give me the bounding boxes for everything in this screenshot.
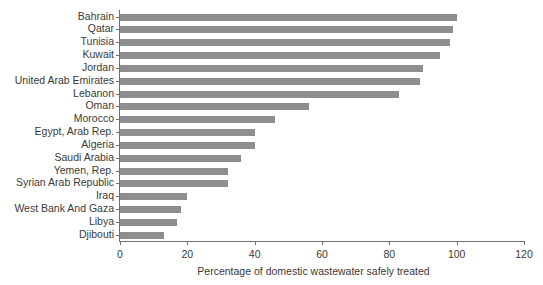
category-label: Egypt, Arab Rep. [35, 126, 114, 137]
bar [120, 168, 228, 175]
bar-row: Qatar [120, 24, 524, 37]
category-label: West Bank And Gaza [14, 203, 114, 214]
bar-chart: BahrainQatarTunisiaKuwaitJordanUnited Ar… [0, 0, 543, 285]
bar [120, 91, 399, 98]
bar-row: Morocco [120, 114, 524, 127]
category-label: Qatar [88, 23, 114, 34]
bar-row: Kuwait [120, 50, 524, 63]
x-axis-tick-label: 100 [448, 248, 466, 260]
x-axis-title: Percentage of domestic wastewater safely… [0, 265, 543, 277]
category-label: Algeria [81, 139, 114, 150]
bar-row: Bahrain [120, 12, 524, 25]
bar [120, 78, 420, 85]
bar-row: Syrian Arab Republic [120, 178, 524, 191]
category-label: Bahrain [78, 11, 114, 22]
x-axis-tick [389, 241, 390, 245]
bar [120, 142, 255, 149]
bar [120, 155, 241, 162]
category-label: United Arab Emirates [15, 75, 114, 86]
bar-row: Jordan [120, 63, 524, 76]
bar [120, 103, 309, 110]
bar-row: United Arab Emirates [120, 76, 524, 89]
x-axis-tick [524, 241, 525, 245]
bar [120, 232, 164, 239]
bar [120, 52, 440, 59]
category-label: Yemen, Rep. [54, 165, 114, 176]
x-axis-tick [322, 241, 323, 245]
x-axis-tick-label: 40 [249, 248, 261, 260]
bar-row: Yemen, Rep. [120, 166, 524, 179]
bar [120, 65, 423, 72]
x-axis-tick [120, 241, 121, 245]
bar-row: Oman [120, 101, 524, 114]
bar-row: Lebanon [120, 89, 524, 102]
category-label: Oman [85, 100, 114, 111]
bar [120, 206, 181, 213]
category-label: Syrian Arab Republic [16, 177, 114, 188]
bar [120, 26, 453, 33]
bar-row: Iraq [120, 191, 524, 204]
category-label: Morocco [74, 113, 114, 124]
category-label: Tunisia [81, 36, 114, 47]
category-label: Iraq [96, 190, 114, 201]
x-axis-title-label: Percentage of domestic wastewater safely… [197, 265, 429, 277]
bar [120, 193, 187, 200]
x-axis-tick-label: 60 [316, 248, 328, 260]
bar-row: Egypt, Arab Rep. [120, 127, 524, 140]
plot-area: BahrainQatarTunisiaKuwaitJordanUnited Ar… [120, 10, 524, 241]
category-label: Kuwait [82, 49, 114, 60]
bar-row: Libya [120, 217, 524, 230]
x-axis-tick [457, 241, 458, 245]
bar [120, 39, 450, 46]
x-axis-tick [255, 241, 256, 245]
bar-row: Saudi Arabia [120, 153, 524, 166]
category-label: Saudi Arabia [54, 152, 114, 163]
x-axis-tick-label: 20 [181, 248, 193, 260]
category-label: Lebanon [73, 88, 114, 99]
bar [120, 129, 255, 136]
bar-row: Tunisia [120, 37, 524, 50]
x-axis-tick-label: 80 [383, 248, 395, 260]
category-label: Libya [89, 216, 114, 227]
bar [120, 180, 228, 187]
x-axis-tick [187, 241, 188, 245]
bar [120, 219, 177, 226]
x-axis-tick-label: 120 [515, 248, 533, 260]
category-label: Djibouti [79, 229, 114, 240]
x-axis-tick-label: 0 [117, 248, 123, 260]
category-label: Jordan [82, 62, 114, 73]
bar [120, 14, 457, 21]
bar-row: West Bank And Gaza [120, 204, 524, 217]
bar-row: Algeria [120, 140, 524, 153]
bar [120, 116, 275, 123]
